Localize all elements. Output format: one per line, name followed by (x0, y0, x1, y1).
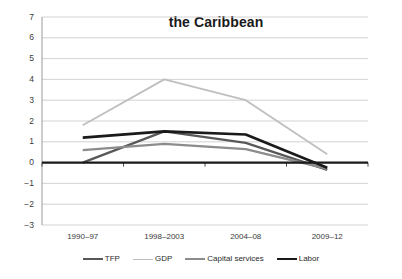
legend-swatch-icon (133, 259, 153, 260)
chart-container: the Caribbean 76543210−1−2−3 1990–971998… (0, 0, 402, 279)
y-tick-label: 4 (8, 75, 34, 84)
y-tick-label: 7 (8, 13, 34, 22)
legend-item-gdp[interactable]: GDP (133, 254, 172, 264)
y-tick-label: −2 (8, 200, 34, 209)
x-tick-label: 1998–2003 (119, 232, 209, 242)
legend-label: Capital services (207, 254, 263, 264)
y-tick-label: 1 (8, 137, 34, 146)
legend-swatch-icon (185, 258, 205, 260)
legend-item-labor[interactable]: Labor (277, 254, 319, 264)
x-tick-label: 2004–08 (201, 232, 291, 242)
y-tick-label: 6 (8, 33, 34, 42)
y-tick-label: −1 (8, 179, 34, 188)
legend-item-capital-services[interactable]: Capital services (185, 254, 263, 264)
x-tick-label: 1990–97 (38, 232, 128, 242)
legend-label: GDP (155, 254, 172, 264)
y-tick-label: −3 (8, 221, 34, 230)
legend-label: TFP (105, 254, 120, 264)
y-tick-label: 2 (8, 117, 34, 126)
legend-item-tfp[interactable]: TFP (83, 254, 120, 264)
x-tick-label: 2009–12 (282, 232, 372, 242)
legend-swatch-icon (277, 258, 297, 260)
legend-label: Labor (299, 254, 319, 264)
legend-swatch-icon (83, 258, 103, 260)
y-tick-label: 5 (8, 54, 34, 63)
y-tick-label: 0 (8, 158, 34, 167)
data-series (83, 79, 328, 169)
y-tick-label: 3 (8, 96, 34, 105)
series-line-gdp (83, 79, 328, 154)
chart-legend: TFPGDPCapital servicesLabor (0, 254, 402, 264)
